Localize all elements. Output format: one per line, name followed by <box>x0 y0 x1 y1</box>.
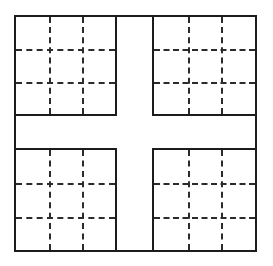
quadrant-bottom-left-dashed-vline-2 <box>82 150 84 250</box>
quadrant-top-right-dashed-hline-1 <box>154 49 255 51</box>
quadrant-bottom-right-dashed-vline-1 <box>188 150 190 250</box>
quadrant-top-right <box>152 15 257 116</box>
quadrant-bottom-left-dashed-hline-1 <box>16 183 115 185</box>
quadrant-bottom-right-dashed-hline-1 <box>154 183 255 185</box>
quadrant-top-right-dashed-hline-2 <box>154 82 255 84</box>
quadrant-bottom-right <box>152 148 257 252</box>
quadrant-top-right-dashed-vline-1 <box>188 17 190 114</box>
quadrant-top-left-dashed-vline-2 <box>82 17 84 114</box>
quadrant-bottom-right-dashed-vline-2 <box>221 150 223 250</box>
quadrant-bottom-right-dashed-hline-2 <box>154 217 255 219</box>
quadrant-top-left-dashed-hline-2 <box>16 82 115 84</box>
quadrant-top-left <box>14 15 117 116</box>
quadrant-top-right-dashed-vline-2 <box>221 17 223 114</box>
quadrant-bottom-left-dashed-vline-1 <box>49 150 51 250</box>
quadrant-top-left-dashed-hline-1 <box>16 49 115 51</box>
quadrant-top-left-dashed-vline-1 <box>49 17 51 114</box>
figure-canvas <box>0 0 273 266</box>
quadrant-bottom-left-dashed-hline-2 <box>16 217 115 219</box>
quadrant-bottom-left <box>14 148 117 252</box>
